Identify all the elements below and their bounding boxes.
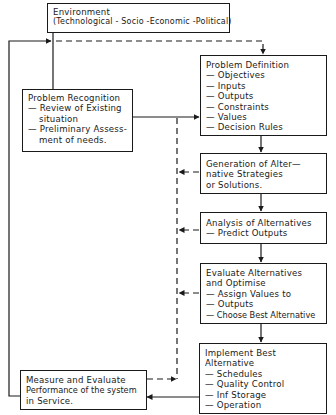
node-item: — Decision Rules [206, 122, 322, 132]
node-item: — Review of Existing [28, 103, 128, 113]
node-item: — Choose Best Alternative [206, 310, 322, 320]
node-item: — Preliminary Assess- [28, 124, 128, 134]
node-item: — Operation [205, 400, 322, 410]
node-item: — Inf Storage [205, 390, 322, 400]
node-item: — Predict Outputs [206, 228, 322, 238]
node-evaluate: Evaluate Alternatives and Optimise — Ass… [200, 263, 327, 324]
node-title: Problem Definition [206, 60, 322, 70]
node-implement: Implement Best Alternative — Schedules —… [199, 343, 327, 414]
node-item: — Inputs [206, 81, 322, 91]
node-item: — Outputs [206, 91, 322, 101]
edge-dashed-environment-definition [56, 41, 263, 54]
node-item: situation [28, 114, 128, 124]
node-item: Performance of the system [26, 385, 142, 395]
node-title: Generation of Alter— [206, 159, 322, 169]
node-title: Problem Recognition [28, 93, 128, 103]
node-item: — Schedules [205, 369, 322, 379]
node-item: — Objectives [206, 70, 322, 80]
node-item: — Values [206, 112, 322, 122]
node-analysis: Analysis of Alternatives — Predict Outpu… [200, 212, 327, 244]
node-generation: Generation of Alter— native Strategies o… [200, 153, 327, 194]
node-item: — Constraints [206, 102, 322, 112]
node-problem-definition: Problem Definition — Objectives — Inputs… [200, 55, 327, 136]
node-problem-recognition: Problem Recognition — Review of Existing… [22, 89, 133, 152]
node-title: Measure and Evaluate [26, 375, 142, 385]
node-item: and Optimise [206, 278, 322, 288]
node-item: ment of needs. [28, 135, 128, 145]
node-title: Analysis of Alternatives [206, 218, 322, 228]
node-item: or Solutions. [206, 180, 322, 190]
node-item: — Assign Values to [206, 289, 322, 299]
node-title: Implement Best [205, 348, 322, 358]
node-item: — Quality Control [205, 379, 322, 389]
node-title: Evaluate Alternatives [206, 268, 322, 278]
node-measure: Measure and Evaluate Performance of the … [20, 370, 147, 410]
node-environment: Environment (Technological - Socio -Econ… [47, 3, 230, 33]
node-title: Environment [53, 7, 225, 17]
node-item: Alternative [205, 358, 322, 368]
node-item: — Outputs [206, 299, 322, 309]
node-subtitle: (Technological - Socio -Economic -Politi… [53, 17, 225, 27]
node-item: native Strategies [206, 169, 322, 179]
node-item: in Service. [26, 396, 142, 406]
